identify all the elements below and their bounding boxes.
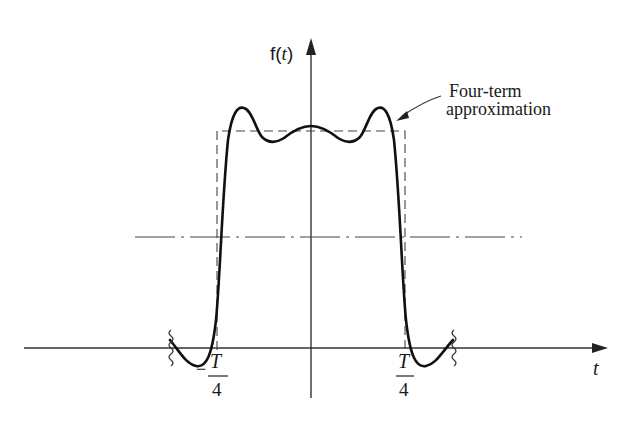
x-axis-label: t bbox=[593, 357, 599, 379]
svg-text:T: T bbox=[210, 350, 223, 372]
svg-text:4: 4 bbox=[399, 379, 409, 400]
annotation-leader-line bbox=[402, 96, 441, 116]
x-axis-arrow-icon bbox=[592, 343, 608, 353]
tick-label-minus-t-over-4: − T 4 bbox=[196, 350, 228, 400]
tick-label-t-over-4: T 4 bbox=[396, 350, 414, 400]
annotation-arrow-icon bbox=[396, 111, 409, 121]
y-axis-label: f(t) bbox=[270, 43, 293, 64]
svg-text:T: T bbox=[398, 350, 411, 372]
svg-text:4: 4 bbox=[212, 379, 222, 400]
fourier-approximation-diagram: f(t) t Four-term approximation − T 4 T 4 bbox=[0, 0, 632, 424]
annotation-line-1: Four-term bbox=[449, 81, 522, 101]
annotation-line-2: approximation bbox=[446, 99, 551, 119]
y-axis-arrow-icon bbox=[306, 38, 316, 55]
svg-text:−: − bbox=[196, 359, 206, 379]
